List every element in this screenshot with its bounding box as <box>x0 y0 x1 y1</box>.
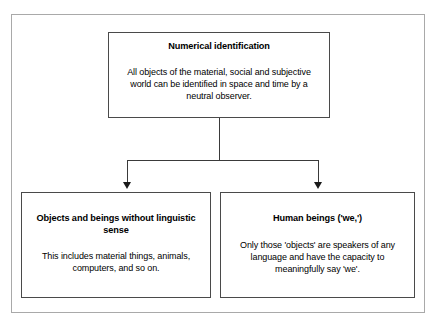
connector-drop-left <box>127 160 128 183</box>
arrow-down-icon-right <box>314 182 322 189</box>
connector-horizontal-bar <box>127 160 319 161</box>
diagram-node-root[interactable]: Numerical identification All objects of … <box>108 32 330 118</box>
diagram-node-root-title: Numerical identification <box>168 41 270 53</box>
diagram-node-left-body: This includes material things, animals, … <box>32 250 200 274</box>
diagram-node-left-title: Objects and beings without linguistic se… <box>32 213 200 236</box>
arrow-down-icon-left <box>123 182 131 189</box>
diagram-node-human-beings[interactable]: Human beings ('we,') Only those 'objects… <box>220 192 415 298</box>
diagram-node-right-title: Human beings ('we,') <box>273 213 362 225</box>
connector-stem <box>219 118 220 161</box>
diagram-node-right-body: Only those 'objects' are speakers of any… <box>230 239 405 276</box>
connector-drop-right <box>318 160 319 183</box>
diagram-canvas: Numerical identification All objects of … <box>0 0 445 333</box>
diagram-node-root-body: All objects of the material, social and … <box>118 66 320 103</box>
diagram-node-objects-without-linguistic-sense[interactable]: Objects and beings without linguistic se… <box>21 192 211 298</box>
